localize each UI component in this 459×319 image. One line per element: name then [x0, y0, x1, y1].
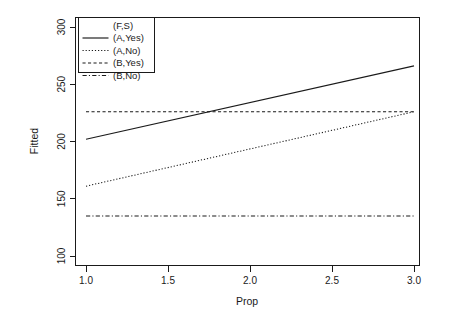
y-axis-tick-labels: 300 250 200 150 100	[56, 18, 67, 264]
chart-figure: 300 250 200 150 100 1.0 1.5 2.0 2.5 3.0 …	[0, 0, 459, 319]
legend-label-b-yes: (B,Yes)	[113, 57, 144, 68]
series-line-a-no	[86, 112, 414, 186]
x-tick-label-1-0: 1.0	[79, 275, 93, 286]
y-tick-label-250: 250	[56, 75, 67, 92]
legend-label-a-no: (A,No)	[113, 45, 140, 56]
y-tick-label-150: 150	[56, 190, 67, 207]
x-tick-label-2-5: 2.5	[325, 275, 339, 286]
x-tick-label-3-0: 3.0	[407, 275, 421, 286]
y-tick-label-200: 200	[56, 133, 67, 150]
legend-title: (F,S)	[113, 20, 133, 31]
y-tick-label-100: 100	[56, 247, 67, 264]
x-tick-label-2-0: 2.0	[243, 275, 257, 286]
y-axis-ticks	[70, 27, 76, 256]
y-axis-title: Fitted	[28, 128, 40, 154]
legend-label-b-no: (B,No)	[113, 70, 140, 81]
legend: (F,S) (A,Yes) (A,No) (B,Yes) (B,No)	[79, 18, 155, 81]
x-tick-label-1-5: 1.5	[161, 275, 175, 286]
y-tick-label-300: 300	[56, 18, 67, 35]
series-group	[86, 66, 414, 216]
legend-label-a-yes: (A,Yes)	[113, 32, 144, 43]
chart-canvas: 300 250 200 150 100 1.0 1.5 2.0 2.5 3.0 …	[0, 0, 459, 319]
x-axis-ticks	[86, 266, 414, 272]
x-axis-title: Prop	[236, 295, 258, 307]
x-axis-tick-labels: 1.0 1.5 2.0 2.5 3.0	[79, 275, 421, 286]
